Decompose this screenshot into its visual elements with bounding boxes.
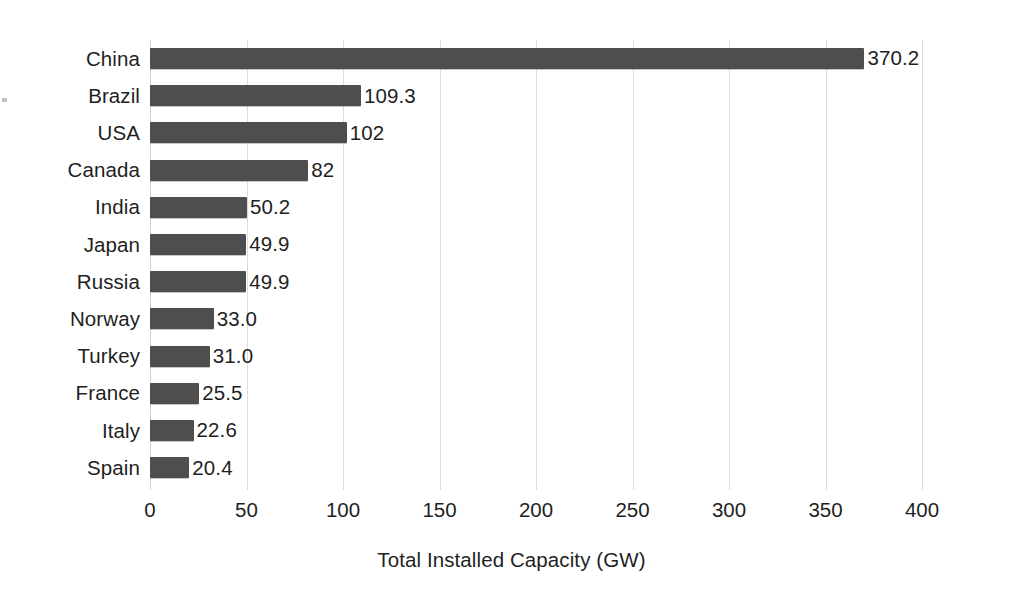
- bar-value-label: 31.0: [213, 346, 253, 367]
- bar[interactable]: [150, 420, 194, 441]
- bar-row: Japan49.9: [150, 226, 922, 263]
- bar[interactable]: [150, 85, 361, 106]
- x-axis-tick-label: 50: [235, 498, 258, 522]
- bar-row: China370.2: [150, 40, 922, 77]
- category-label: France: [76, 381, 140, 405]
- bar[interactable]: [150, 197, 247, 218]
- bar-row: Italy22.6: [150, 412, 922, 449]
- category-label: Brazil: [88, 84, 140, 108]
- category-label: Italy: [102, 419, 140, 443]
- gridline: [922, 40, 923, 490]
- bar-value-label: 33.0: [217, 309, 257, 330]
- bar-row: USA102: [150, 114, 922, 151]
- bar-row: Spain20.4: [150, 449, 922, 486]
- bar-value-label: 370.2: [867, 48, 919, 69]
- x-axis-tick-label: 400: [905, 498, 939, 522]
- bar-row: Brazil109.3: [150, 77, 922, 114]
- x-axis-tick-label: 350: [808, 498, 842, 522]
- x-axis-title: Total Installed Capacity (GW): [0, 548, 1023, 572]
- category-label: China: [86, 47, 140, 71]
- bar-value-label: 109.3: [364, 86, 416, 107]
- bar-row: India50.2: [150, 189, 922, 226]
- bar-row: Canada82: [150, 152, 922, 189]
- x-axis-tick-label: 150: [422, 498, 456, 522]
- bar[interactable]: [150, 308, 214, 329]
- bar-value-label: 25.5: [202, 383, 242, 404]
- bar[interactable]: [150, 160, 308, 181]
- bar[interactable]: [150, 271, 246, 292]
- category-label: Spain: [87, 456, 140, 480]
- bar-row: France25.5: [150, 375, 922, 412]
- x-axis-tick-label: 200: [519, 498, 553, 522]
- bar-chart: China370.2Brazil109.3USA102Canada82India…: [0, 0, 1023, 604]
- category-label: Japan: [84, 233, 140, 257]
- bar-value-label: 50.2: [250, 197, 290, 218]
- category-label: Turkey: [78, 344, 141, 368]
- x-axis-tick-label: 0: [144, 498, 155, 522]
- bar[interactable]: [150, 383, 199, 404]
- bar-row: Norway33.0: [150, 300, 922, 337]
- bar[interactable]: [150, 457, 189, 478]
- scan-artifact: [2, 98, 7, 102]
- bar-value-label: 49.9: [249, 234, 289, 255]
- bar-value-label: 82: [311, 160, 334, 181]
- plot-area: China370.2Brazil109.3USA102Canada82India…: [150, 40, 922, 490]
- bar-value-label: 20.4: [192, 458, 232, 479]
- x-axis-tick-label: 300: [712, 498, 746, 522]
- x-axis-tick-label: 250: [615, 498, 649, 522]
- bar[interactable]: [150, 346, 210, 367]
- bar-value-label: 22.6: [197, 420, 237, 441]
- bar-value-label: 49.9: [249, 272, 289, 293]
- category-label: USA: [98, 121, 140, 145]
- bar-row: Russia49.9: [150, 263, 922, 300]
- category-label: Russia: [77, 270, 140, 294]
- bar[interactable]: [150, 48, 864, 69]
- bar[interactable]: [150, 122, 347, 143]
- bar-row: Turkey31.0: [150, 338, 922, 375]
- bar[interactable]: [150, 234, 246, 255]
- x-axis-tick-label: 100: [326, 498, 360, 522]
- category-label: Canada: [68, 158, 140, 182]
- category-label: India: [95, 195, 140, 219]
- bar-value-label: 102: [350, 123, 385, 144]
- category-label: Norway: [70, 307, 140, 331]
